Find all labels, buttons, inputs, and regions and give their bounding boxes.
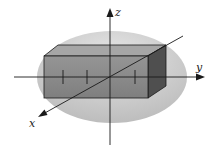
y-axis-label: y (195, 61, 203, 74)
x-axis-label: x (29, 117, 36, 130)
x-axis-arrow-icon (38, 110, 48, 118)
box-top-face (44, 45, 166, 56)
y-axis-arrow-icon (196, 74, 205, 81)
ellipsoid-box-diagram: z y x (0, 0, 211, 151)
z-axis-label: z (114, 6, 121, 19)
z-axis-arrow-icon (107, 8, 114, 17)
